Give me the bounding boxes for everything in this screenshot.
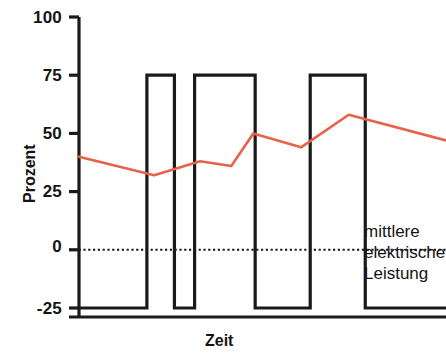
mean-power-series — [79, 115, 446, 176]
signal-step-series — [79, 75, 446, 308]
power-chart: 100 75 50 25 0 -25 Prozent Zeit mittlere… — [0, 0, 446, 355]
chart-plot-area — [0, 0, 446, 355]
